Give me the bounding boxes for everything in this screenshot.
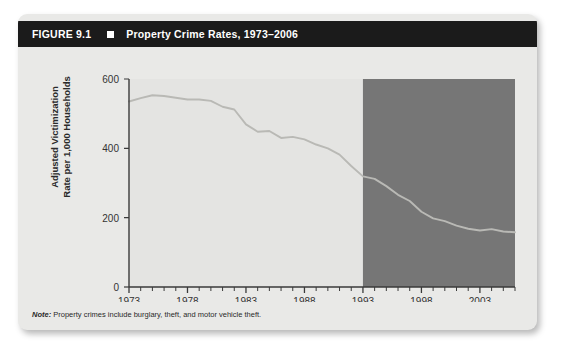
chart-plot-area: Adjusted Victimization Rate per 1,000 Ho… — [18, 47, 537, 302]
x-tick-label: 1998 — [410, 296, 433, 302]
x-tick-label: 1993 — [352, 296, 375, 302]
note-label: Note: — [32, 310, 51, 319]
x-tick-label: 1973 — [118, 296, 141, 302]
x-tick-label: 1988 — [293, 296, 316, 302]
y-axis-ticks: 0200400600 — [102, 74, 129, 293]
figure-title-label: Property Crime Rates, 1973–2006 — [126, 28, 298, 40]
y-tick-label: 400 — [102, 143, 119, 154]
line-chart-svg: 0200400600 1973197819831988199319982003 — [18, 47, 537, 302]
x-tick-label: 1983 — [235, 296, 258, 302]
y-tick-label: 0 — [113, 282, 119, 293]
shaded-band-1993-2006 — [363, 79, 515, 287]
y-tick-label: 600 — [102, 74, 119, 85]
figure-card: FIGURE 9.1 Property Crime Rates, 1973–20… — [18, 14, 537, 330]
square-bullet-icon — [107, 31, 114, 38]
figure-number-label: FIGURE 9.1 — [32, 28, 91, 40]
x-tick-label: 2003 — [469, 296, 492, 302]
x-axis-ticks: 1973197819831988199319982003 — [118, 287, 515, 302]
figure-note: Note: Property crimes include burglary, … — [32, 310, 512, 320]
x-tick-label: 1978 — [176, 296, 199, 302]
y-tick-label: 200 — [102, 213, 119, 224]
figure-title-bar: FIGURE 9.1 Property Crime Rates, 1973–20… — [18, 21, 537, 47]
note-text: Property crimes include burglary, theft,… — [51, 310, 261, 319]
